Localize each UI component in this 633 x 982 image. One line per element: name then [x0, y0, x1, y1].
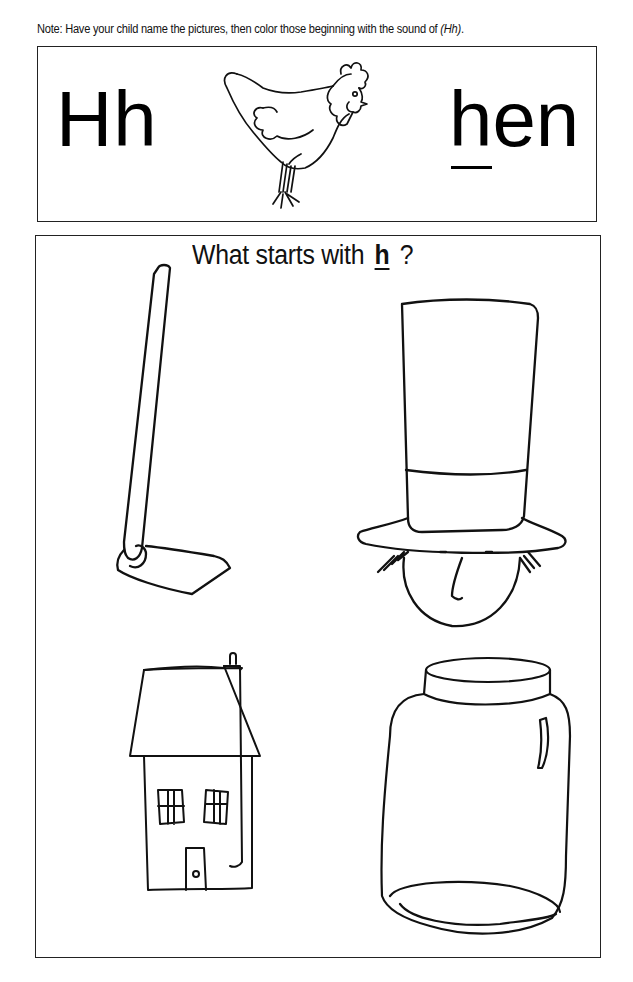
- example-word-first-letter: h: [449, 80, 492, 158]
- jar-icon[interactable]: [370, 656, 580, 940]
- example-word-rest: en: [492, 75, 579, 163]
- question-suffix: ?: [393, 240, 413, 270]
- note-sound: (Hh): [440, 22, 461, 36]
- top-hat-icon[interactable]: [352, 290, 570, 630]
- letter-pair: Hh: [56, 80, 158, 158]
- example-word: hen: [449, 80, 579, 158]
- hoe-icon[interactable]: [110, 262, 240, 632]
- instruction-note: Note: Have your child name the pictures,…: [37, 22, 464, 36]
- note-text: Note: Have your child name the pictures,…: [37, 22, 440, 36]
- house-icon[interactable]: [128, 652, 268, 898]
- hen-icon: [215, 58, 375, 218]
- question-letter: h: [371, 240, 393, 270]
- note-suffix: .: [461, 22, 464, 36]
